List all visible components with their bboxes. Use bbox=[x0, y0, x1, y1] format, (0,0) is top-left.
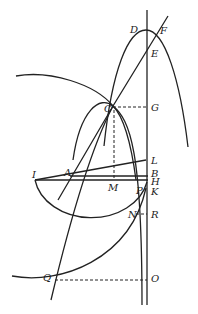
point-label-o: O bbox=[151, 273, 159, 284]
upper-parabola bbox=[104, 30, 188, 147]
point-label-c: C bbox=[104, 103, 112, 114]
large-circle-arc bbox=[16, 75, 113, 106]
lower-arc-QP bbox=[12, 188, 146, 278]
line-IL bbox=[35, 160, 146, 180]
point-label-i: I bbox=[31, 169, 37, 180]
curve-C-to-Q bbox=[51, 106, 113, 300]
point-label-a: A bbox=[63, 167, 71, 178]
point-label-p: P bbox=[135, 185, 143, 196]
point-label-k: K bbox=[150, 186, 159, 197]
geometry-diagram: DFECGLIABHMPKNRQO bbox=[0, 0, 198, 314]
point-label-e: E bbox=[150, 48, 159, 59]
point-label-m: M bbox=[107, 182, 119, 193]
point-label-g: G bbox=[151, 102, 159, 113]
point-label-n: N bbox=[127, 209, 138, 220]
diagram-canvas: DFECGLIABHMPKNRQO bbox=[0, 0, 198, 314]
point-label-f: F bbox=[159, 25, 168, 36]
point-label-r: R bbox=[150, 209, 159, 220]
point-label-q: Q bbox=[43, 272, 51, 283]
point-label-l: L bbox=[150, 155, 158, 166]
point-label-d: D bbox=[129, 24, 138, 35]
